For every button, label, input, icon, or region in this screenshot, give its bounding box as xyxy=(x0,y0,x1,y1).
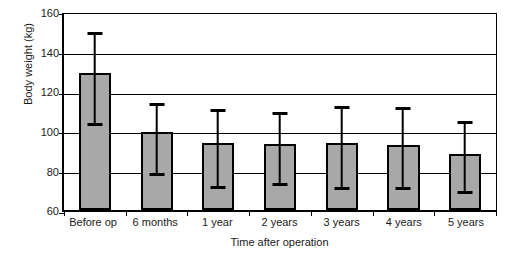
y-tick-label: 120 xyxy=(19,87,59,98)
x-axis-tick-labels: Before op6 months1 year2 years3 years4 y… xyxy=(62,216,497,229)
error-bar-cap-upper xyxy=(396,107,411,110)
error-bar-cap-lower xyxy=(211,186,226,189)
error-bar xyxy=(279,112,281,184)
bar-slot xyxy=(249,14,311,210)
y-tick-label: 140 xyxy=(19,48,59,59)
x-tick-label: 6 months xyxy=(124,216,186,229)
error-bar-cap-lower xyxy=(458,191,473,194)
bar-slot xyxy=(187,14,249,210)
error-bar-cap-upper xyxy=(211,109,226,112)
y-tick-label: 100 xyxy=(19,127,59,138)
error-bar-cap-lower xyxy=(87,123,102,126)
error-bar xyxy=(402,107,404,188)
x-axis-title: Time after operation xyxy=(62,236,497,248)
error-bar-cap-upper xyxy=(458,121,473,124)
error-bar xyxy=(217,109,219,187)
bar-series xyxy=(64,14,496,210)
x-tick-label: 4 years xyxy=(373,216,435,229)
x-tick-label: Before op xyxy=(62,216,124,229)
bar-chart: Body weight (kg) 160 140 120 100 80 60 B… xyxy=(0,0,515,254)
error-bar-cap-upper xyxy=(87,32,102,35)
bar-slot xyxy=(434,14,496,210)
x-tick-label: 5 years xyxy=(435,216,497,229)
error-bar-cap-upper xyxy=(273,112,288,115)
error-bar-cap-upper xyxy=(334,106,349,109)
x-tick-label: 3 years xyxy=(311,216,373,229)
error-bar-cap-lower xyxy=(334,187,349,190)
error-bar-cap-lower xyxy=(273,183,288,186)
bar-slot xyxy=(311,14,373,210)
error-bar xyxy=(340,106,342,188)
error-bar-cap-lower xyxy=(149,173,164,176)
bar-slot xyxy=(373,14,435,210)
bar-slot xyxy=(64,14,126,210)
y-tick-label: 160 xyxy=(19,8,59,19)
y-tick-label: 80 xyxy=(19,167,59,178)
bar-slot xyxy=(126,14,188,210)
error-bar xyxy=(94,32,96,124)
plot-area xyxy=(62,13,497,212)
x-tick-label: 1 year xyxy=(186,216,248,229)
x-tick-label: 2 years xyxy=(248,216,310,229)
error-bar-cap-upper xyxy=(149,103,164,106)
error-bar xyxy=(155,103,157,174)
error-bar-cap-lower xyxy=(396,187,411,190)
y-tick-label: 60 xyxy=(19,206,59,217)
y-axis-title: Body weight (kg) xyxy=(22,0,34,144)
error-bar xyxy=(464,121,466,191)
